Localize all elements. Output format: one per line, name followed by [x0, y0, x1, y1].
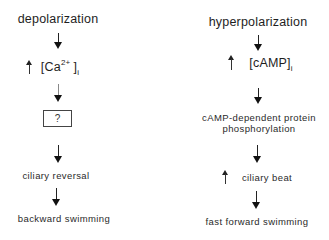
fast-forward-swimming-label: fast forward swimming: [206, 217, 309, 227]
ciliary-beat-label: ciliary beat: [242, 173, 292, 183]
camp-concentration-label: [cAMP]i: [249, 57, 292, 70]
unknown-mechanism-box: ?: [43, 110, 72, 127]
depolarization-label: depolarization: [18, 13, 99, 26]
increase-arrow-icon: [227, 55, 235, 70]
down-arrow-icon: [252, 145, 262, 163]
down-arrow-icon: [253, 88, 263, 104]
increase-arrow-icon: [221, 170, 229, 184]
down-arrow-icon: [251, 191, 261, 209]
down-arrow-icon: [53, 33, 63, 49]
down-arrow-icon: [53, 145, 63, 163]
protein-phosphorylation-label-line2: phosphorylation: [222, 124, 295, 134]
hyperpolarization-label: hyperpolarization: [209, 16, 308, 29]
protein-phosphorylation-label-line1: cAMP-dependent protein: [202, 113, 316, 123]
down-arrow-icon: [253, 35, 263, 51]
down-arrow-icon: [51, 188, 61, 206]
down-arrow-icon: [53, 84, 63, 102]
calcium-concentration-label: [Ca2+]i: [41, 61, 79, 74]
ciliary-reversal-label: ciliary reversal: [22, 171, 89, 181]
increase-arrow-icon: [25, 60, 33, 74]
backward-swimming-label: backward swimming: [18, 214, 110, 224]
